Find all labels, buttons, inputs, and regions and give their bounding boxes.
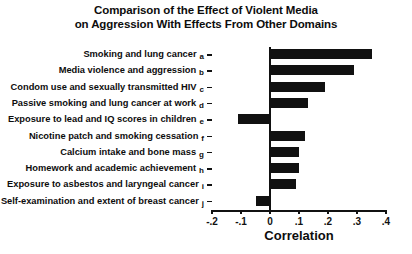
category-label-text: Calcium intake and bone mass xyxy=(60,147,196,157)
y-axis-tick xyxy=(207,152,212,154)
bar-row xyxy=(212,129,386,145)
bar-row xyxy=(212,112,386,128)
x-axis-tick-label: -.2 xyxy=(197,216,227,227)
x-axis-tick-label: -.1 xyxy=(226,216,256,227)
bar-row xyxy=(212,161,386,177)
chart-title: Comparison of the Effect of Violent Medi… xyxy=(0,3,412,31)
category-label-text: Passive smoking and lung cancer at work xyxy=(12,98,196,108)
y-axis-tick xyxy=(207,54,212,56)
category-label-letter: f xyxy=(201,134,204,143)
y-axis-tick xyxy=(207,201,212,203)
y-axis-tick xyxy=(207,70,212,72)
category-label: Exposure to asbestos and laryngeal cance… xyxy=(0,179,207,191)
category-label: Calcium intake and bone massg xyxy=(0,147,207,159)
plot-area: -.2-.10.1.2.3.4 xyxy=(212,47,386,210)
category-label-letter: g xyxy=(199,150,204,159)
chart-figure: Comparison of the Effect of Violent Medi… xyxy=(0,0,412,254)
bar-row xyxy=(212,96,386,112)
x-axis-tick-label: .2 xyxy=(313,216,343,227)
category-label-letter: j xyxy=(202,199,204,208)
bar xyxy=(270,98,308,108)
category-label-letter: b xyxy=(199,68,204,77)
category-label-text: Self-examination and extent of breast ca… xyxy=(1,196,199,206)
x-axis-tick-label: 0 xyxy=(255,216,285,227)
category-label-text: Exposure to lead and IQ scores in childr… xyxy=(8,114,197,124)
category-label: Passive smoking and lung cancer at workd xyxy=(0,98,207,110)
bar xyxy=(238,114,270,124)
bar-row xyxy=(212,194,386,210)
bar xyxy=(270,179,296,189)
x-axis-tick xyxy=(211,210,213,214)
category-label: Homework and academic achievementh xyxy=(0,163,207,175)
x-axis-tick xyxy=(298,210,300,214)
category-label-letter: a xyxy=(200,52,204,61)
category-label-text: Media violence and aggression xyxy=(59,65,196,75)
category-label: Condom use and sexually transmitted HIVc xyxy=(0,82,207,94)
x-axis-tick xyxy=(240,210,242,214)
bar-row xyxy=(212,177,386,193)
category-label-text: Homework and academic achievement xyxy=(26,163,197,173)
y-axis-tick xyxy=(207,168,212,170)
category-label: Exposure to lead and IQ scores in childr… xyxy=(0,114,207,126)
category-label-letter: i xyxy=(202,182,204,191)
y-axis-tick xyxy=(207,136,212,138)
category-label-text: Smoking and lung cancer xyxy=(83,49,196,59)
bar-row xyxy=(212,145,386,161)
category-label-letter: h xyxy=(199,166,204,175)
x-axis-tick xyxy=(385,210,387,214)
y-axis-tick xyxy=(207,184,212,186)
category-label-letter: c xyxy=(200,85,204,94)
category-label-letter: e xyxy=(200,117,204,126)
category-label-column: Smoking and lung canceraMedia violence a… xyxy=(0,47,207,210)
x-axis-tick-label: .4 xyxy=(371,216,401,227)
bar xyxy=(270,147,299,157)
x-axis-tick xyxy=(356,210,358,214)
y-axis-tick xyxy=(207,87,212,89)
x-axis-tick-label: .1 xyxy=(284,216,314,227)
bar-row xyxy=(212,47,386,63)
x-axis-title: Correlation xyxy=(212,228,386,243)
bar xyxy=(256,196,271,206)
y-axis-tick xyxy=(207,103,212,105)
bar xyxy=(270,82,325,92)
bar xyxy=(270,65,354,75)
category-label-text: Nicotine patch and smoking cessation xyxy=(29,131,198,141)
category-label: Smoking and lung cancera xyxy=(0,49,207,61)
category-label-letter: d xyxy=(199,101,204,110)
category-label: Self-examination and extent of breast ca… xyxy=(0,196,207,208)
x-axis-tick xyxy=(327,210,329,214)
category-label: Nicotine patch and smoking cessationf xyxy=(0,131,207,143)
x-axis-tick-label: .3 xyxy=(342,216,372,227)
category-label-text: Exposure to asbestos and laryngeal cance… xyxy=(7,179,199,189)
x-axis-tick xyxy=(269,210,271,214)
bar xyxy=(270,49,372,59)
bar-row xyxy=(212,80,386,96)
y-axis-tick xyxy=(207,119,212,121)
bar xyxy=(270,163,299,173)
category-label: Media violence and aggressionb xyxy=(0,65,207,77)
chart-title-line-2: on Aggression With Effects From Other Do… xyxy=(0,17,412,31)
category-label-text: Condom use and sexually transmitted HIV xyxy=(11,82,197,92)
bar xyxy=(270,131,305,141)
chart-title-line-1: Comparison of the Effect of Violent Medi… xyxy=(0,3,412,17)
bar-row xyxy=(212,63,386,79)
